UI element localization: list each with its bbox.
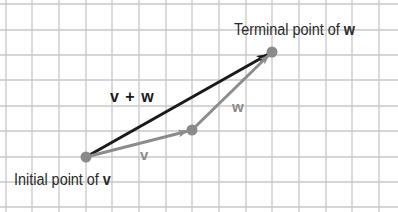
initial-point-vector: v xyxy=(103,171,111,188)
vector-diagram: Terminal point of w v + w w v Initial po… xyxy=(0,0,398,212)
vector-v xyxy=(86,131,187,157)
mid-point-dot xyxy=(187,125,198,136)
terminal-point-dot xyxy=(267,47,278,58)
vector-w xyxy=(192,55,268,130)
initial-point-dot xyxy=(81,152,92,163)
w-label: w xyxy=(232,99,244,114)
initial-point-prefix: Initial point of xyxy=(14,171,103,188)
initial-point-label: Initial point of v xyxy=(14,172,111,188)
terminal-point-vector: w xyxy=(344,21,355,38)
v-label: v xyxy=(140,147,148,162)
sum-label: v + w xyxy=(110,89,154,105)
terminal-point-label: Terminal point of w xyxy=(234,22,355,38)
terminal-point-prefix: Terminal point of xyxy=(234,21,344,38)
